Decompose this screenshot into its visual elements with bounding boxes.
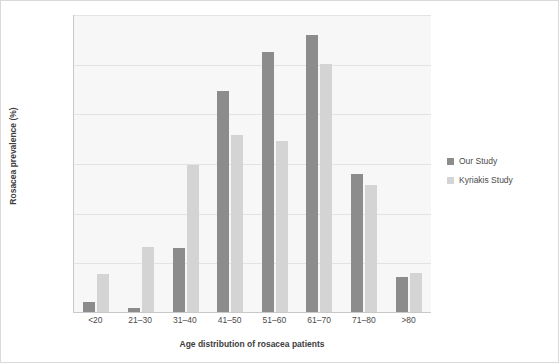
x-axis-label: Age distribution of rosacea patients — [73, 339, 431, 349]
bar — [365, 185, 377, 312]
x-axis-tick-label: 61–70 — [297, 315, 342, 325]
chart-figure: 0.0%5.0%10.0%15.0%20.0%25.0%30.0% Rosace… — [0, 0, 559, 363]
x-axis-tick-label: 51–60 — [252, 315, 297, 325]
legend-item[interactable]: Kyriakis Study — [447, 175, 513, 185]
x-axis-tick-label: <20 — [73, 315, 118, 325]
bar — [128, 308, 140, 312]
bar — [320, 64, 332, 312]
legend: Our StudyKyriakis Study — [447, 156, 513, 194]
y-axis-label: Rosacea prevalence (%) — [8, 26, 18, 286]
x-axis-tick-label: 21–30 — [118, 315, 163, 325]
bar — [306, 35, 318, 312]
bar — [187, 165, 199, 312]
bar-group — [253, 15, 298, 312]
bar — [142, 247, 154, 312]
x-axis-tick-label: >80 — [386, 315, 431, 325]
x-axis-tick-label: 41–50 — [207, 315, 252, 325]
bar — [351, 174, 363, 312]
bar-group — [74, 15, 119, 312]
plot-area — [73, 15, 431, 313]
x-axis-tick-label: 71–80 — [342, 315, 387, 325]
bar-group — [386, 15, 431, 312]
bar-groups — [74, 15, 431, 312]
bar — [173, 248, 185, 312]
bar-group — [163, 15, 208, 312]
x-axis-tick-label: 31–40 — [163, 315, 208, 325]
bar — [97, 274, 109, 312]
bar — [217, 91, 229, 312]
x-axis-ticks: <2021–3031–4041–5051–6061–7071–80>80 — [73, 315, 431, 325]
legend-label: Our Study — [459, 156, 497, 166]
legend-label: Kyriakis Study — [459, 175, 513, 185]
bar-group — [342, 15, 387, 312]
bar — [262, 52, 274, 312]
bar — [231, 135, 243, 312]
bar — [276, 141, 288, 312]
legend-swatch-icon — [447, 158, 454, 165]
bar — [83, 302, 95, 312]
bar-group — [119, 15, 164, 312]
bar-group — [208, 15, 253, 312]
bar — [410, 273, 422, 312]
legend-item[interactable]: Our Study — [447, 156, 513, 166]
bar-group — [297, 15, 342, 312]
bar — [396, 277, 408, 312]
legend-swatch-icon — [447, 177, 454, 184]
